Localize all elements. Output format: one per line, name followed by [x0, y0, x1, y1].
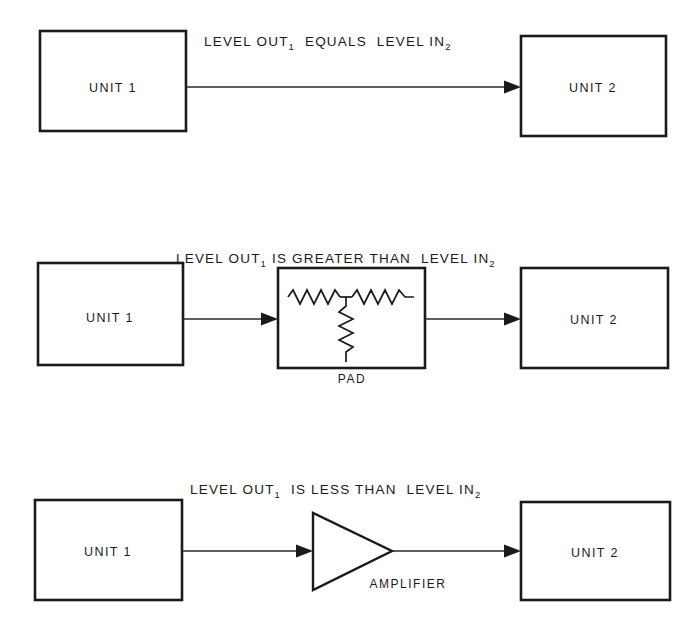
unit-2-label: UNIT 2	[569, 81, 617, 95]
relation-prefix: LEVEL OUT	[204, 34, 289, 49]
unit-1-label: UNIT 1	[86, 311, 134, 325]
relation-suffix-subscript: 2	[445, 41, 451, 52]
relation-label-less: LEVEL OUT1 IS LESS THAN LEVEL IN2	[190, 482, 481, 500]
relation-suffix: LEVEL IN	[377, 34, 445, 49]
relation-comparison: IS GREATER THAN	[272, 251, 411, 266]
relation-label-greater: LEVEL OUT1 IS GREATER THAN LEVEL IN2	[176, 251, 496, 269]
arrowhead-into-pad	[261, 313, 278, 326]
relation-comparison: IS LESS THAN	[291, 482, 397, 497]
relation-suffix-subscript: 2	[475, 489, 481, 500]
relation-prefix: LEVEL OUT	[190, 482, 275, 497]
unit-2-label: UNIT 2	[570, 313, 618, 327]
amplifier-label: AMPLIFIER	[370, 577, 447, 591]
diagram-row-less: LEVEL OUT1 IS LESS THAN LEVEL IN2 UNIT 1…	[35, 482, 670, 600]
diagram-row-greater: LEVEL OUT1 IS GREATER THAN LEVEL IN2 UNI…	[38, 251, 668, 386]
relation-prefix: LEVEL OUT	[176, 251, 261, 266]
relation-suffix: LEVEL IN	[407, 482, 475, 497]
relation-label-equal: LEVEL OUT1 EQUALS LEVEL IN2	[204, 34, 452, 52]
arrowhead-into-unit-2	[504, 313, 521, 326]
unit-2-label: UNIT 2	[571, 546, 619, 560]
arrowhead-into-amplifier	[296, 545, 313, 558]
arrowhead-into-unit-2	[504, 545, 521, 558]
signal-level-diagram: LEVEL OUT1 EQUALS LEVEL IN2 UNIT 1 UNIT …	[0, 0, 700, 631]
unit-1-label: UNIT 1	[84, 545, 132, 559]
diagram-row-equal: LEVEL OUT1 EQUALS LEVEL IN2 UNIT 1 UNIT …	[40, 31, 666, 136]
relation-suffix-subscript: 2	[489, 258, 495, 269]
unit-1-label: UNIT 1	[89, 81, 137, 95]
arrowhead-into-unit-2	[504, 81, 521, 94]
pad-label: PAD	[338, 372, 366, 386]
relation-suffix: LEVEL IN	[421, 251, 489, 266]
relation-comparison: EQUALS	[305, 34, 367, 49]
